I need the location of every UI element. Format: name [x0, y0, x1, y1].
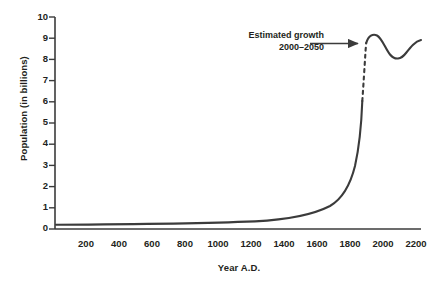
estimated-growth-dashed-line: [362, 43, 366, 101]
y-axis-ticks: [49, 17, 55, 229]
historical-population-line: [56, 101, 362, 225]
projected-population-line: [366, 35, 421, 59]
